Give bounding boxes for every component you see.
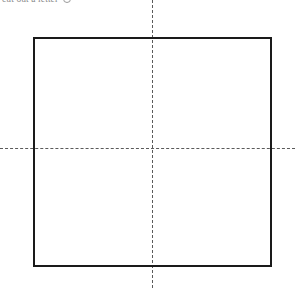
figure-caption-text: cut out a letter <box>2 0 71 5</box>
figure-canvas: cut out a letter <box>0 0 301 291</box>
figure-caption: cut out a letter <box>0 0 301 7</box>
caption-words: cut out a letter <box>2 0 58 4</box>
square-outline <box>33 37 272 267</box>
circle-glyph-icon <box>63 0 71 3</box>
